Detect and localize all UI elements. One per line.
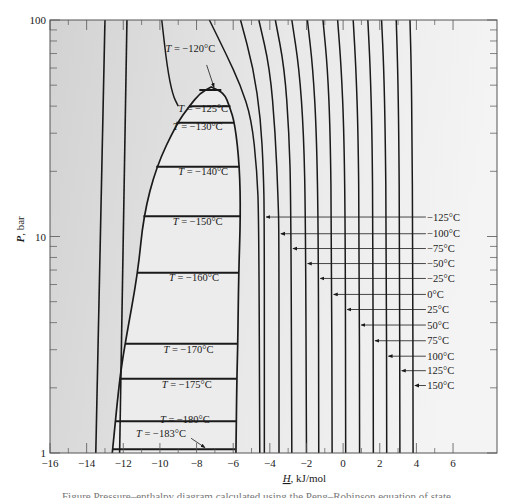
isotherm-temp-label: −75°C xyxy=(427,243,455,254)
isotherm-temp-label: −50°C xyxy=(427,258,455,269)
x-tick-label: 4 xyxy=(414,457,420,469)
x-tick-label: 2 xyxy=(377,457,383,469)
x-tick-label: −14 xyxy=(78,457,96,469)
isotherm-label: T = −180°C xyxy=(160,414,210,425)
isotherm-temp-label: −125°C xyxy=(427,212,460,223)
isotherm-temp-label: 100°C xyxy=(427,351,454,362)
isotherm-temp-label: −25°C xyxy=(427,273,455,284)
isotherm-label: T = −175°C xyxy=(162,379,212,390)
isotherm-label: T = −140°C xyxy=(178,166,228,177)
y-axis-label: P, bar xyxy=(14,216,26,243)
x-tick-label: −2 xyxy=(301,457,313,469)
chart-svg: T = −120°CT = −125°CT = −130°CT = −140°C… xyxy=(0,0,509,498)
x-tick-label: −12 xyxy=(115,457,132,469)
figure-caption: Figure Pressure–enthalpy diagram calcula… xyxy=(62,486,502,498)
isotherm-label: T = −183°C xyxy=(136,428,186,439)
isotherm-label: T = −160°C xyxy=(169,272,219,283)
isotherm-temp-label: 0°C xyxy=(427,289,443,300)
isotherm-temp-label: 50°C xyxy=(427,320,449,331)
isotherm-label: T = −120°C xyxy=(165,43,215,54)
x-tick-label: 6 xyxy=(450,457,456,469)
isotherm-label: T = −130°C xyxy=(173,121,223,132)
isotherm-temp-label: 150°C xyxy=(427,380,454,391)
x-axis-label: H, kJ/mol xyxy=(282,472,326,484)
y-tick-label: 10 xyxy=(35,231,47,243)
x-tick-label: 0 xyxy=(340,457,346,469)
y-tick-label: 100 xyxy=(30,14,47,26)
isotherm-label: T = −150°C xyxy=(173,216,223,227)
y-tick-label: 1 xyxy=(41,447,47,459)
x-tick-label: −8 xyxy=(191,457,203,469)
isotherm-temp-label: 25°C xyxy=(427,304,449,315)
isotherm-label: T = −125°C xyxy=(178,103,228,114)
x-tick-label: −4 xyxy=(264,457,276,469)
x-tick-label: −10 xyxy=(151,457,169,469)
isotherm-temp-label: 125°C xyxy=(427,365,454,376)
isotherm-temp-label: 75°C xyxy=(427,335,449,346)
pressure-enthalpy-chart: T = −120°CT = −125°CT = −130°CT = −140°C… xyxy=(0,0,509,498)
x-tick-label: −6 xyxy=(227,457,239,469)
isotherm-temp-label: −100°C xyxy=(427,228,460,239)
isotherm-label: T = −170°C xyxy=(164,344,214,355)
